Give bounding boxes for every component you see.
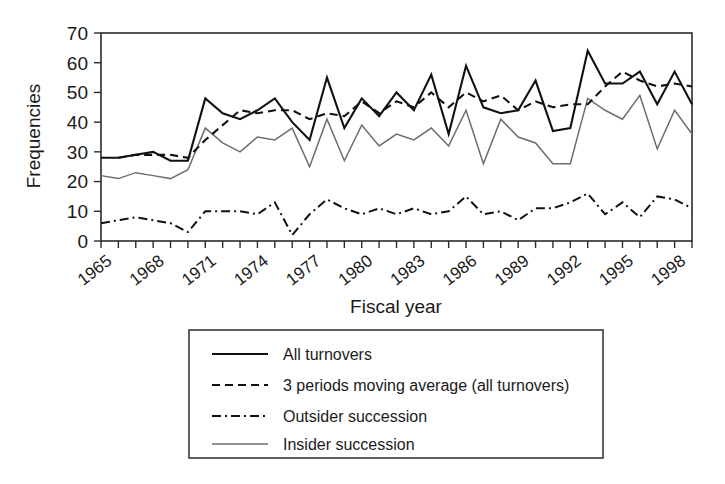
legend-label-all-turnovers: All turnovers xyxy=(283,346,372,363)
plot-series xyxy=(101,51,692,235)
x-axis-title: Fiscal year xyxy=(350,296,443,317)
legend-label-moving-average: 3 periods moving average (all turnovers) xyxy=(283,377,569,394)
x-tick-label: 1992 xyxy=(543,251,585,289)
x-tick-label: 1986 xyxy=(439,251,481,289)
y-tick-label: 10 xyxy=(67,201,88,222)
y-tick-label: 70 xyxy=(67,23,88,44)
x-tick-label: 1980 xyxy=(335,251,377,289)
y-tick-label: 40 xyxy=(67,112,88,133)
x-tick-labels: 1965196819711974197719801983198619891992… xyxy=(74,251,689,289)
series-line-outsider-succession xyxy=(101,193,692,235)
x-tick-label: 1974 xyxy=(230,251,272,289)
legend-label-outsider-succession: Outsider succession xyxy=(283,408,427,425)
x-tick-label: 1998 xyxy=(648,251,690,289)
y-ticks xyxy=(94,33,101,241)
y-tick-label: 20 xyxy=(67,171,88,192)
x-tick-label: 1977 xyxy=(283,251,325,289)
y-tick-label: 50 xyxy=(67,82,88,103)
y-tick-label: 30 xyxy=(67,142,88,163)
y-tick-label: 60 xyxy=(67,53,88,74)
y-tick-labels: 70 60 50 40 30 20 10 0 xyxy=(67,23,88,252)
legend-label-insider-succession: Insider succession xyxy=(283,436,415,453)
chart-figure: Frequencies 70 60 50 40 30 20 10 0 19651… xyxy=(0,0,725,484)
series-line-all-turnovers xyxy=(101,51,692,161)
chart-svg: Frequencies 70 60 50 40 30 20 10 0 19651… xyxy=(0,0,725,484)
x-tick-label: 1995 xyxy=(595,251,637,289)
plot-frame xyxy=(101,33,692,241)
series-line-insider-succession xyxy=(101,95,692,178)
x-ticks xyxy=(101,241,692,248)
x-tick-label: 1971 xyxy=(178,251,220,289)
chart-legend: All turnovers 3 periods moving average (… xyxy=(189,330,603,458)
x-tick-label: 1989 xyxy=(491,251,533,289)
x-tick-label: 1965 xyxy=(74,251,116,289)
y-tick-label: 0 xyxy=(77,231,88,252)
x-tick-label: 1968 xyxy=(126,251,168,289)
x-tick-label: 1983 xyxy=(387,251,429,289)
y-axis-title: Frequencies xyxy=(23,84,44,189)
